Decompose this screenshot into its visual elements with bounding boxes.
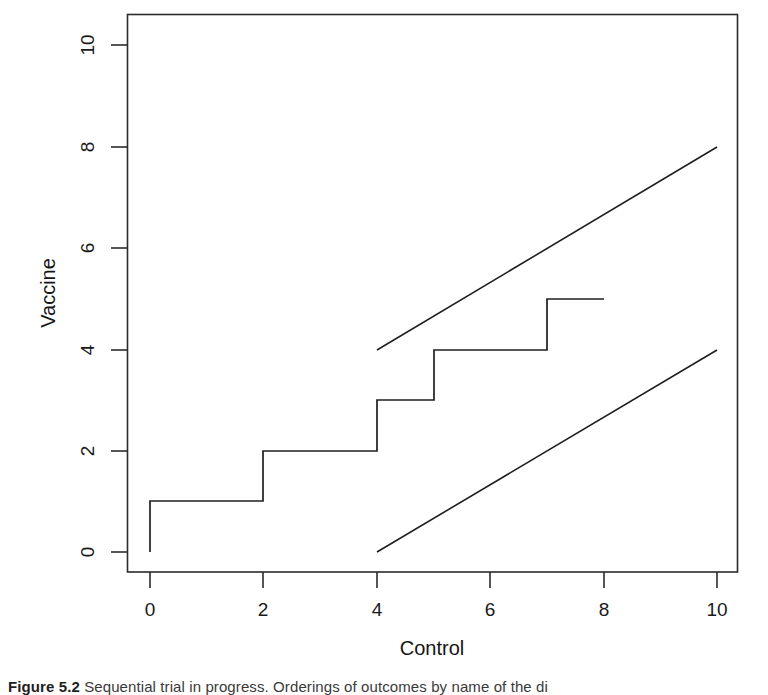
figure-caption: Figure 5.2 Sequential trial in progress.… (8, 678, 760, 695)
plot-canvas: 0 2 4 6 8 10 0 2 4 6 8 10 Control Vaccin… (0, 0, 768, 695)
figure-caption-band: Figure 5.2 Sequential trial in progress.… (0, 678, 768, 695)
series-trial-path (150, 299, 604, 552)
y-tick-label-4: 4 (77, 344, 98, 355)
figure-caption-number: Figure 5.2 (8, 678, 80, 695)
figure-caption-body: Sequential trial in progress. Orderings … (84, 678, 548, 695)
x-tick-label-4: 4 (372, 599, 383, 620)
figure-container: 0 2 4 6 8 10 0 2 4 6 8 10 Control Vaccin… (0, 0, 768, 695)
y-tick-label-8: 8 (77, 142, 98, 153)
y-tick-label-6: 6 (77, 243, 98, 254)
x-axis-title: Control (400, 637, 464, 659)
x-tick-label-2: 2 (258, 599, 269, 620)
x-tick-label-10: 10 (706, 599, 727, 620)
y-axis-tick-labels: 0 2 4 6 8 10 (77, 34, 98, 557)
y-tick-label-2: 2 (77, 446, 98, 457)
series-lower-boundary (377, 350, 717, 552)
x-tick-label-0: 0 (145, 599, 156, 620)
x-axis-tick-labels: 0 2 4 6 8 10 (145, 599, 728, 620)
y-tick-label-10: 10 (77, 34, 98, 55)
x-axis-ticks (150, 572, 717, 588)
y-tick-label-0: 0 (77, 547, 98, 558)
plot-frame (128, 15, 738, 573)
x-tick-label-6: 6 (485, 599, 496, 620)
x-tick-label-8: 8 (599, 599, 610, 620)
y-axis-title: Vaccine (37, 258, 59, 328)
y-axis-ticks (111, 45, 127, 552)
